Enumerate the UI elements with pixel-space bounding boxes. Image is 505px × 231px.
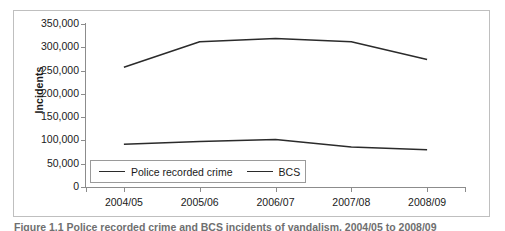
x-axis-tick-mark (351, 187, 352, 192)
x-axis-tick-mark (427, 187, 428, 192)
y-axis-tick-label: 350,000 (17, 17, 79, 29)
y-axis-tick-label: 250,000 (17, 64, 79, 76)
y-axis-tick-mark (81, 24, 86, 25)
x-axis-tick-mark (276, 187, 277, 192)
legend-label: Police recorded crime (131, 166, 233, 178)
y-axis-tick-mark (81, 117, 86, 118)
y-axis-tick-label: 200,000 (17, 87, 79, 99)
y-axis-tick-label: 0 (17, 180, 79, 192)
x-axis-tick-mark (200, 187, 201, 192)
legend-line-swatch (247, 171, 273, 172)
x-axis-tick-mark (86, 187, 87, 192)
y-axis-tick-mark (81, 47, 86, 48)
y-axis-tick-mark (81, 164, 86, 165)
y-axis-tick-label: 150,000 (17, 110, 79, 122)
y-axis-tick-mark (81, 94, 86, 95)
y-axis-tick-label: 300,000 (17, 40, 79, 52)
y-axis-tick-label: 100,000 (17, 133, 79, 145)
legend-entry: Police recorded crime (99, 166, 233, 178)
x-axis-tick-label: 2005/06 (160, 196, 240, 208)
x-axis-tick-mark (124, 187, 125, 192)
y-axis-tick-mark (81, 140, 86, 141)
legend-entry: BCS (247, 166, 301, 178)
y-axis-tick-label: 50,000 (17, 157, 79, 169)
x-axis-tick-label: 2007/08 (311, 196, 391, 208)
x-axis-tick-mark (465, 187, 466, 192)
figure-root: Incidents 050,000100,000150,000200,00025… (0, 0, 505, 231)
y-axis-tick-labels: 050,000100,000150,000200,000250,000300,0… (14, 0, 79, 231)
figure-caption: Figure 1.1 Police recorded crime and BCS… (14, 221, 494, 231)
x-axis-tick-label: 2004/05 (84, 196, 164, 208)
x-axis-tick-label: 2008/09 (387, 196, 467, 208)
legend-line-swatch (99, 171, 125, 172)
chart-legend: Police recorded crimeBCS (90, 160, 306, 183)
legend-label: BCS (279, 166, 301, 178)
y-axis-tick-mark (81, 71, 86, 72)
x-axis-tick-label: 2006/07 (236, 196, 316, 208)
